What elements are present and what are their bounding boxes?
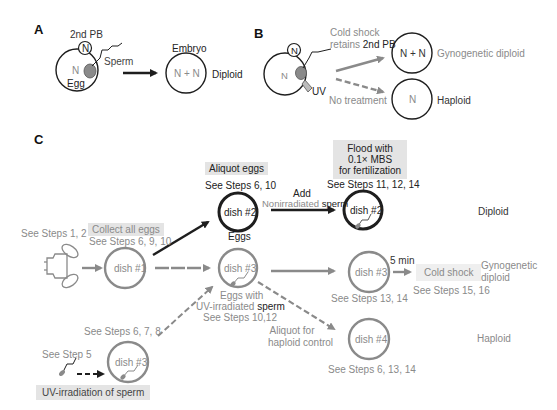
panel-b-label: B [254,26,263,41]
gyno-content: N + N [400,48,426,59]
free-sperm-head [58,369,66,377]
gyno-line1: Gynogenetic [481,260,537,271]
collect-eggs-box: Collect all eggs [88,223,164,236]
eggs-with-label: Eggs with [220,290,263,301]
embryo-content: N + N [174,68,200,79]
embryo-label: Embryo [172,43,206,54]
flood-line1: Flood with [337,143,403,154]
dish2-label: dish #2 [224,207,256,218]
no-treatment-label: No treatment [329,95,387,106]
haploid-result-c: Haploid [477,333,511,344]
uv-irradiated-text: UV-irradiated [196,301,254,312]
panel-c-graphics [44,191,410,382]
sperm-text: sperm [319,198,348,209]
dish4-label: dish #4 [355,334,387,345]
uv-irradiated-sperm-label: UV-irradiated sperm [196,301,285,312]
gyno-result: Gynogenetic diploid [437,48,525,59]
egg-label: Egg [67,78,85,89]
aliquot-for-line1: Aliquot for [262,325,322,336]
steps-13-14: See Steps 13, 14 [331,293,408,304]
cold-shock-2nd-pb: 2nd PB [363,39,396,50]
eggs-label: Eggs [228,231,251,242]
dish3b-label: dish #3 [355,267,387,278]
aliquot-steps: See Steps 6, 10 [205,180,276,191]
uv-lamp-icon [302,80,312,92]
free-sperm-tail [63,358,76,372]
polar-body-nucleus: N [82,43,89,54]
haploid-result-b: Haploid [437,95,471,106]
uv-irradiation-box: UV-irradiation of sperm [36,385,150,400]
haploid-content: N [409,94,416,105]
see-step-5: See Step 5 [42,349,91,360]
diploid-result-a: Diploid [212,69,243,80]
aliquot-for-line2: haploid control [268,337,333,348]
dish2b-label: dish #2 [350,205,382,216]
flood-box: Flood with 0.1× MBS for fertilization [333,140,407,179]
five-min-label: 5 min [390,255,414,266]
nonirradiated-text: Nonirradiated [262,198,319,209]
sperm-tail-b [303,49,331,68]
flood-line2: 0.1× MBS [337,154,403,165]
steps-10-12: See Steps 10,12 [203,312,277,323]
nonirradiated-sperm-label: Nonirradiated sperm [262,198,348,209]
see-steps-1-2: See Steps 1, 2 [21,228,87,239]
panel-c-label: C [34,132,43,147]
uv-label: UV [312,86,326,97]
dish3c-label: dish #3 [115,357,147,368]
arrow-no-treatment [336,79,383,92]
gyno-line2: diploid [481,272,510,283]
uv-sperm-text: sperm [254,301,285,312]
cold-shock-box: Cold shock [416,264,481,281]
frog-icon [44,242,80,291]
sperm-head-b [296,67,307,80]
sperm-head [84,64,96,78]
collect-steps: See Steps 6, 9, 10 [89,236,171,247]
steps-15-16: See Steps 15, 16 [413,285,490,296]
cold-shock-retains: retains [330,39,363,50]
steps-6-13-14: See Steps 6, 13, 14 [328,364,416,375]
flood-steps: See Steps 11, 12, 14 [327,179,420,190]
polar-body-label: 2nd PB [70,29,103,40]
aliquot-eggs-box: Aliquot eggs [205,162,268,175]
dish3-label: dish #3 [224,263,256,274]
cold-shock-line1: Cold shock [330,27,379,38]
diploid-result-c: Diploid [478,206,509,217]
flood-line3: for fertilization [337,165,403,176]
steps-6-7-8: See Steps 6, 7, 8 [84,326,161,337]
panel-a-label: A [34,22,43,37]
cold-shock-line2: retains 2nd PB [330,39,396,50]
egg-nucleus-b: N [281,70,288,81]
egg-nucleus: N [72,65,79,76]
arrow-cold-shock [336,58,383,71]
dish1-label: dish #1 [114,263,146,274]
polar-body-nucleus-b: N [291,45,298,56]
sperm-label: Sperm [104,56,133,67]
